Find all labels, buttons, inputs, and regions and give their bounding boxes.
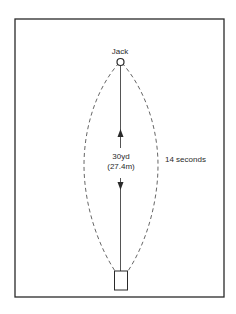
arrow-up-icon <box>118 129 124 137</box>
jack-icon <box>117 59 124 66</box>
arrow-down-icon <box>118 182 124 190</box>
mat-icon <box>115 271 128 290</box>
bowls-diagram: Jack 30yd (27.4m) 14 seconds <box>0 0 236 314</box>
distance-meters: (27.4m) <box>105 162 137 172</box>
jack-label: Jack <box>107 47 133 57</box>
distance-yards: 30yd <box>105 152 137 162</box>
time-label: 14 seconds <box>165 155 206 165</box>
distance-label: 30yd (27.4m) <box>105 152 137 172</box>
